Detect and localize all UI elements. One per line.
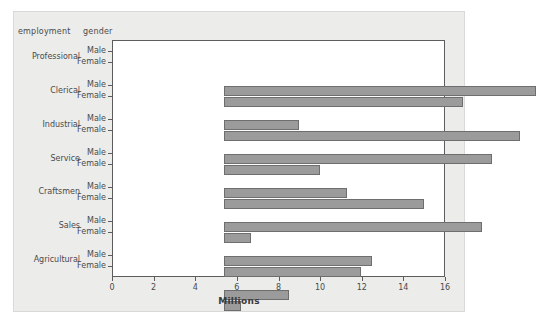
y-tick bbox=[108, 221, 112, 222]
y-tick bbox=[108, 164, 112, 165]
bar-sales-male bbox=[224, 256, 372, 266]
y-tick bbox=[108, 198, 112, 199]
employment-label-professional: Professional bbox=[14, 52, 80, 61]
x-tick bbox=[362, 277, 363, 281]
x-tick-label-2: 2 bbox=[142, 283, 166, 292]
employment-label-clerical: Clerical bbox=[14, 86, 80, 95]
x-tick-label-8: 8 bbox=[267, 283, 291, 292]
employment-label-craftsmen: Craftsmen bbox=[14, 187, 80, 196]
y-tick bbox=[108, 51, 112, 52]
x-tick bbox=[279, 277, 280, 281]
employment-label-service: Service bbox=[14, 154, 80, 163]
x-tick bbox=[445, 277, 446, 281]
bar-industrial-female bbox=[224, 165, 320, 175]
x-tick bbox=[320, 277, 321, 281]
employment-label-agricultural: Agricultural bbox=[14, 255, 80, 264]
y-tick bbox=[108, 96, 112, 97]
bar-clerical-male bbox=[224, 120, 299, 130]
employment-label-sales: Sales bbox=[14, 221, 80, 230]
x-tick bbox=[112, 277, 113, 281]
x-tick-label-10: 10 bbox=[308, 283, 332, 292]
x-tick-label-4: 4 bbox=[183, 283, 207, 292]
x-tick bbox=[154, 277, 155, 281]
y-tick bbox=[108, 266, 112, 267]
bar-professional-female bbox=[224, 97, 463, 107]
y-tick bbox=[108, 255, 112, 256]
y-tick bbox=[108, 232, 112, 233]
x-tick-label-16: 16 bbox=[433, 283, 457, 292]
bars-layer bbox=[112, 40, 445, 277]
bar-industrial-male bbox=[224, 154, 492, 164]
x-tick-label-12: 12 bbox=[350, 283, 374, 292]
bar-clerical-female bbox=[224, 131, 520, 141]
bar-sales-female bbox=[224, 267, 361, 277]
x-tick bbox=[403, 277, 404, 281]
column-header-employment: employment bbox=[18, 27, 71, 36]
bar-craftsmen-female bbox=[224, 233, 251, 243]
bar-service-female bbox=[224, 199, 424, 209]
y-tick bbox=[108, 130, 112, 131]
x-axis-title: Millions bbox=[0, 296, 478, 306]
x-tick-label-6: 6 bbox=[225, 283, 249, 292]
y-tick bbox=[108, 119, 112, 120]
x-tick bbox=[195, 277, 196, 281]
bar-service-male bbox=[224, 188, 347, 198]
y-tick bbox=[108, 62, 112, 63]
bar-professional-male bbox=[224, 86, 536, 96]
y-tick bbox=[108, 153, 112, 154]
bar-craftsmen-male bbox=[224, 222, 482, 232]
x-tick-label-0: 0 bbox=[100, 283, 124, 292]
x-tick bbox=[237, 277, 238, 281]
x-tick-label-14: 14 bbox=[391, 283, 415, 292]
column-header-gender: gender bbox=[83, 27, 113, 36]
employment-label-industrial: Industrial bbox=[14, 120, 80, 129]
y-tick bbox=[108, 187, 112, 188]
y-tick bbox=[108, 85, 112, 86]
